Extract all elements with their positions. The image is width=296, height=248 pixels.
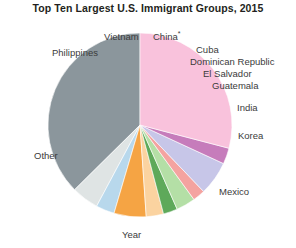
- slice-label-philippines: Philippines: [52, 47, 98, 58]
- pie-chart-canvas: [0, 0, 296, 248]
- slice-label-other: Other: [34, 150, 58, 161]
- slice-label-china-asterisk: *: [178, 30, 181, 37]
- slice-label-mexico: Mexico: [219, 186, 249, 197]
- slice-label-guatemala: Guatemala: [212, 80, 258, 91]
- slice-label-cuba: Cuba: [196, 44, 219, 55]
- pie-chart-figure: Top Ten Largest U.S. Immigrant Groups, 2…: [0, 0, 296, 248]
- slice-label-china: China*: [153, 31, 181, 42]
- axis-label-year: Year: [122, 229, 141, 240]
- slice-label-el-salvador: El Salvador: [203, 68, 252, 79]
- slice-label-vietnam: Vietnam: [104, 31, 139, 42]
- slice-label-korea: Korea: [238, 130, 263, 141]
- slice-label-india: India: [237, 102, 258, 113]
- slice-label-dominican-republic: Dominican Republic: [190, 56, 274, 67]
- slice-label-china-text: China: [153, 31, 178, 42]
